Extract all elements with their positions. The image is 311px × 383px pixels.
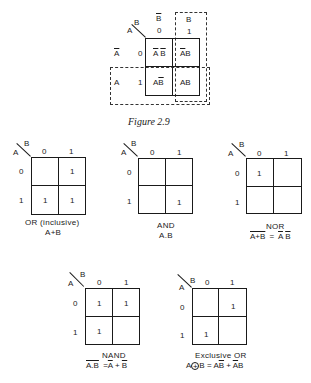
row-header-1: 1	[180, 332, 184, 340]
col-header-0: 0	[42, 148, 46, 156]
map-name: AND	[157, 221, 175, 230]
col-header-1: 1	[124, 279, 128, 287]
row-header-0: 0	[73, 300, 77, 308]
map-name: NOR	[266, 222, 285, 231]
col-header-1: 1	[230, 279, 234, 287]
corner-label-a: A	[121, 149, 126, 157]
col-header-1: 1	[177, 149, 181, 157]
corner-label-b: B	[190, 277, 195, 285]
cell-a-bar-b-bar: AB	[153, 50, 166, 58]
cell-1-1: 1	[177, 199, 181, 207]
grid-divider-h	[246, 186, 302, 187]
col-header-0: 0	[157, 27, 161, 35]
cell-0-0: 1	[257, 170, 261, 178]
col-header-0: 0	[150, 149, 154, 157]
cell-0-1: 1	[124, 300, 128, 308]
row-symbol-a: A	[114, 79, 119, 87]
corner-label-b: B	[80, 271, 85, 279]
row-header-1: 1	[19, 197, 23, 205]
row-header-1: 1	[127, 198, 131, 206]
row-header-0: 0	[180, 304, 184, 312]
map-expression: A+B = AB + AB	[186, 361, 243, 370]
row-header-0: 0	[235, 170, 239, 178]
grid-divider-h	[31, 185, 86, 186]
row-header-1: 1	[235, 199, 239, 207]
grid-divider-h	[145, 66, 200, 67]
cell-1-1: 1	[70, 197, 74, 205]
corner-label-b: B	[24, 140, 29, 148]
grid-divider-h	[138, 185, 193, 186]
map-name: Exclusive OR	[195, 351, 247, 360]
corner-label-a: A	[179, 284, 184, 292]
corner-label-b: B	[131, 140, 136, 148]
corner-label-a: A	[68, 280, 73, 288]
cell-a-bar-b: AB	[180, 50, 191, 58]
map-expression: A.B =A + B	[86, 361, 127, 370]
figure-caption: Figure 2.9	[128, 116, 170, 127]
corner-label-a: A	[13, 149, 18, 157]
col-header-1: 1	[69, 148, 73, 156]
map-expression: A+B	[45, 228, 61, 237]
cell-1-0: 1	[204, 331, 208, 339]
col-symbol-b: B	[186, 16, 191, 24]
map-expression: A+B = A B	[250, 232, 291, 241]
col-header-1: 1	[187, 28, 191, 36]
cell-a-b: AB	[180, 79, 191, 87]
col-header-0: 0	[257, 150, 261, 158]
corner-label-b: B	[239, 141, 244, 149]
col-header-1: 1	[284, 150, 288, 158]
col-header-0: 0	[97, 279, 101, 287]
row-header-0: 0	[19, 168, 23, 176]
row-header-1: 1	[73, 329, 77, 337]
row-symbol-a-bar: A	[114, 50, 119, 58]
map-expression: A.B	[159, 231, 173, 240]
corner-label-a: A	[228, 150, 233, 158]
grid-divider-h	[192, 316, 247, 317]
cell-0-1: 1	[231, 303, 235, 311]
map-name: OR (inclusive)	[25, 218, 79, 227]
cell-1-0: 1	[43, 197, 47, 205]
cell-1-0: 1	[97, 328, 101, 336]
col-header-0: 0	[205, 279, 209, 287]
cell-a-b-bar: AB	[153, 79, 164, 87]
row-header-0: 0	[138, 50, 142, 58]
corner-label-b: B	[134, 19, 139, 27]
corner-label-a: A	[127, 27, 132, 35]
cell-0-1: 1	[70, 168, 74, 176]
row-header-1: 1	[138, 79, 142, 87]
col-symbol-b-bar: B	[156, 15, 161, 23]
row-header-0: 0	[127, 169, 131, 177]
map-name: NAND	[102, 351, 126, 360]
cell-0-0: 1	[97, 300, 101, 308]
grid-divider-h	[85, 316, 140, 317]
